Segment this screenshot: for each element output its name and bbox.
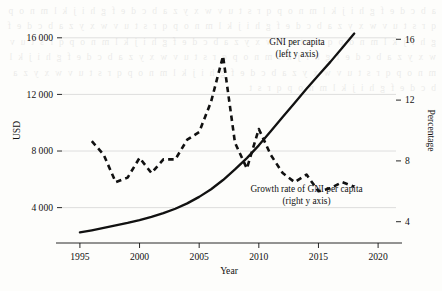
xtick-label-2000: 2000	[130, 251, 149, 262]
xtick-label-2005: 2005	[190, 251, 209, 262]
gni-per-capita-label-line2: (left y axis)	[276, 49, 319, 60]
y2tick-label-4: 4	[405, 216, 410, 227]
chart-figure: a b c d e f g h i j k l m n o p q r s t …	[0, 0, 442, 291]
y2tick-label-12: 12	[405, 94, 415, 105]
xtick-label-1995: 1995	[70, 251, 89, 262]
xtick-label-2020: 2020	[369, 251, 388, 262]
series-line-growth-rate-of-gni-per-capita	[92, 56, 354, 191]
gni-per-capita-label-line1: GNI per capita	[269, 37, 324, 47]
y2tick-label-8: 8	[405, 155, 410, 166]
y2tick-label-16: 16	[405, 34, 415, 45]
y2-axis-title: Percentage	[426, 109, 437, 151]
xtick-label-2015: 2015	[309, 251, 328, 262]
gni-per-capita-chart: 4 0008 00012 00016 000481216199520002005…	[0, 0, 442, 291]
xtick-label-2010: 2010	[249, 251, 268, 262]
x-axis-title: Year	[220, 265, 238, 276]
ytick-label-12000: 12 000	[27, 89, 54, 100]
ytick-label-4000: 4 000	[31, 202, 53, 213]
growth-rate-label-line2: (right y axis)	[283, 196, 331, 207]
ytick-label-16000: 16 000	[27, 32, 54, 43]
y-axis-title: USD	[11, 121, 22, 140]
ytick-label-8000: 8 000	[31, 145, 53, 156]
growth-rate-label-line1: Growth rate of GNI per capita	[250, 184, 362, 194]
